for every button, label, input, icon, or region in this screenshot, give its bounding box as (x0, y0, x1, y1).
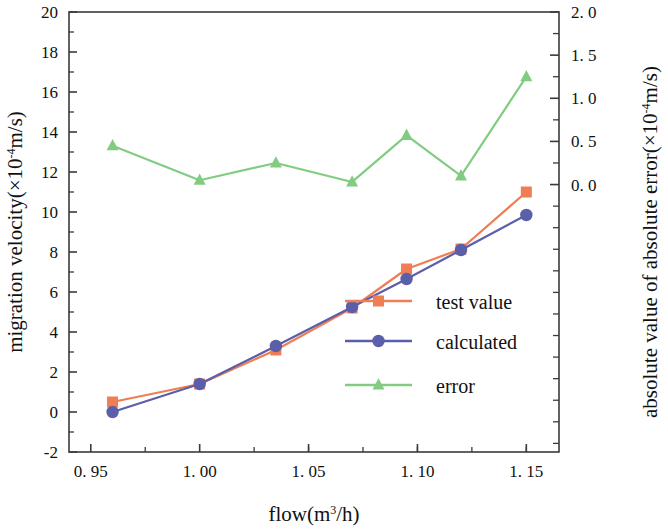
data-point-marker (373, 296, 384, 307)
y-axis-tick-label: -2 (44, 443, 58, 462)
y-axis-tick-label: 0 (50, 403, 59, 422)
data-point-marker (372, 335, 384, 347)
legend-item-error[interactable]: error (345, 375, 475, 397)
chart-figure: -2024681012141618200. 00. 51. 01. 52. 00… (0, 0, 668, 531)
y-axis-tick-label: 12 (41, 163, 58, 182)
y-axis-tick-label: 18 (41, 43, 58, 62)
data-point-marker (270, 340, 282, 352)
x-axis-tick-label: 0. 95 (74, 462, 108, 481)
y2-axis-title: absolute value of absolute error(×10-4m/… (638, 66, 662, 418)
y-axis-title: migration velocity(×10-4m/s) (3, 111, 27, 353)
y-axis-tick-label: 6 (50, 283, 59, 302)
series-line (113, 77, 527, 182)
y-axis-title-main: migration velocity(×10 (3, 158, 27, 352)
y-axis-tick-label: 20 (41, 3, 58, 22)
y2-axis-tick-label: 1. 0 (571, 89, 597, 108)
y-axis-tick-label: 16 (41, 83, 58, 102)
y2-axis-tick-label: 0. 0 (571, 176, 597, 195)
data-point-marker (107, 139, 119, 150)
y2-axis-tick-label: 1. 5 (571, 46, 597, 65)
y-axis-tick-label: 14 (41, 123, 59, 142)
x-axis-tick-label: 1. 00 (183, 462, 217, 481)
chart-canvas: -2024681012141618200. 00. 51. 01. 52. 00… (0, 0, 668, 531)
data-point-marker (400, 273, 412, 285)
data-point-marker (193, 378, 205, 390)
data-point-marker (106, 406, 118, 418)
y-axis-tick-label: 8 (50, 243, 59, 262)
x-axis-title-tail: /h) (336, 502, 359, 526)
y-axis-tick-label: 10 (41, 203, 58, 222)
x-axis-title: flow(m3/h) (268, 502, 359, 526)
data-point-marker (346, 301, 358, 313)
y2-axis-tick-label: 0. 5 (571, 132, 597, 151)
x-axis-tick-label: 1. 10 (400, 462, 434, 481)
y-axis-tick-label: 4 (50, 323, 59, 342)
y2-axis-title-main: absolute value of absolute error(×10 (638, 113, 662, 418)
data-point-marker (455, 244, 467, 256)
y-axis-title-tail: m/s) (3, 111, 27, 148)
series-error (107, 70, 533, 187)
data-point-marker (401, 129, 413, 140)
data-point-marker (520, 70, 532, 81)
x-axis-tick-label: 1. 15 (509, 462, 543, 481)
plot-frame (69, 12, 559, 452)
y-axis-title-superscript: -4 (4, 148, 18, 158)
data-point-marker (521, 187, 532, 198)
legend-label: error (436, 375, 475, 397)
y-axis-tick-label: 2 (50, 363, 59, 382)
x-axis-tick-label: 1. 05 (292, 462, 326, 481)
data-point-marker (270, 156, 282, 167)
y2-axis-tick-label: 2. 0 (571, 3, 597, 22)
y2-axis-title-tail: m/s) (638, 66, 662, 103)
data-point-marker (520, 209, 532, 221)
legend-item-calculated[interactable]: calculated (345, 331, 517, 353)
x-axis-title-main: flow(m (268, 502, 330, 526)
legend-label: test value (436, 291, 512, 313)
legend-label: calculated (436, 331, 517, 353)
y2-axis-title-superscript: -4 (639, 103, 653, 113)
